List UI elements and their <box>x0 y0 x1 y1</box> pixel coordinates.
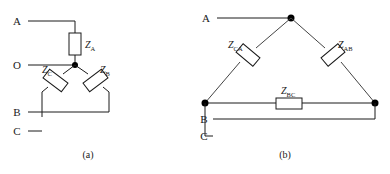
impedance-za-subscript: A <box>91 45 96 52</box>
impedance-label-za: ZA <box>85 39 96 52</box>
impedance-zab-subscript: AB <box>344 45 354 52</box>
wire-a-to-za <box>28 21 75 33</box>
terminal-label-o-wye: O <box>13 59 21 71</box>
impedance-label-zab: ZAB <box>338 39 353 52</box>
diagram-b-group: A B C ZCA ZAB ZBC (b) <box>200 12 378 161</box>
caption-a: (a) <box>82 149 93 161</box>
impedance-zc-subscript: C <box>48 70 52 77</box>
wire-apex-to-zab <box>291 18 325 48</box>
impedance-zbc-box <box>276 98 302 109</box>
impedance-label-zbc: ZBC <box>281 85 295 98</box>
terminal-label-a-wye: A <box>13 15 21 27</box>
terminal-label-c-delta: C <box>200 130 207 142</box>
wire-zab-to-right-node <box>341 62 375 103</box>
terminal-label-b-delta: B <box>200 113 207 125</box>
terminal-label-c-wye: C <box>13 125 20 137</box>
impedance-zca-subscript: CA <box>234 45 243 52</box>
diagram-a-group: A O B C ZA ZC ZB (a) <box>13 15 111 161</box>
wire-node-to-zb <box>75 65 88 74</box>
wire-apex-to-zca <box>256 18 291 48</box>
wire-node-to-zc <box>63 65 75 74</box>
impedance-label-zc: ZC <box>42 64 52 77</box>
terminal-label-b-wye: B <box>13 106 20 118</box>
caption-b: (b) <box>279 149 291 161</box>
terminal-label-a-delta: A <box>202 12 210 24</box>
wire-zb-to-bottom <box>103 87 109 112</box>
wire-zca-to-left-node <box>205 62 240 103</box>
impedance-zbc-subscript: BC <box>287 91 296 98</box>
circuit-figure: A O B C ZA ZC ZB (a) <box>0 0 390 174</box>
impedance-zb-subscript: B <box>106 70 111 77</box>
impedance-label-zb: ZB <box>100 64 111 77</box>
impedance-label-zca: ZCA <box>228 39 243 52</box>
impedance-za-box <box>69 33 81 55</box>
